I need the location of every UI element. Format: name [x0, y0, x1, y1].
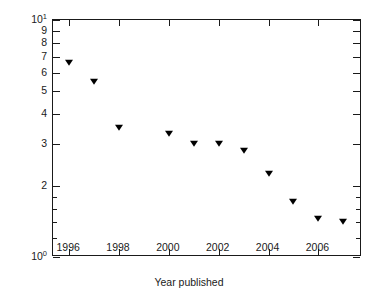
- data-point-marker: [165, 131, 173, 137]
- x-axis-tick-label: 2004: [243, 242, 293, 253]
- y-axis-minor-tick: [53, 238, 57, 239]
- y-axis-tick: [353, 186, 360, 187]
- data-point-marker: [65, 60, 73, 66]
- x-axis-tick: [119, 20, 120, 26]
- y-axis-tick-label: 4: [3, 108, 47, 119]
- data-point-marker: [190, 141, 198, 147]
- data-point-marker: [265, 170, 273, 176]
- y-axis-tick: [53, 114, 60, 115]
- y-axis-tick-label: 100: [3, 251, 47, 262]
- x-axis-tick-label: 2000: [143, 242, 193, 253]
- y-axis-tick-label: 5: [3, 85, 47, 96]
- data-point-marker: [289, 199, 297, 205]
- y-axis-tick: [353, 73, 360, 74]
- y-axis-tick: [353, 43, 360, 44]
- y-axis-tick: [53, 257, 60, 258]
- y-axis-tick: [53, 43, 60, 44]
- x-axis-title: Year published: [0, 276, 378, 288]
- chart-page: Pixel size (μm) Year published 101987654…: [0, 0, 378, 302]
- y-axis-tick-label: 2: [3, 180, 47, 191]
- x-axis-tick: [69, 20, 70, 26]
- y-axis-minor-tick: [53, 222, 57, 223]
- y-axis-minor-tick: [356, 197, 360, 198]
- y-axis-tick-label: 101: [3, 14, 47, 25]
- x-axis-tick-label: 2006: [292, 242, 342, 253]
- y-axis-tick: [53, 73, 60, 74]
- data-point-marker: [90, 78, 98, 84]
- y-axis-tick-label: 8: [3, 37, 47, 48]
- data-point-marker: [115, 125, 123, 131]
- y-axis-tick: [353, 257, 360, 258]
- y-axis-tick: [353, 20, 360, 21]
- y-axis-tick: [353, 91, 360, 92]
- y-axis-minor-tick: [53, 197, 57, 198]
- y-axis-tick: [53, 20, 60, 21]
- y-axis-tick: [353, 144, 360, 145]
- y-axis-minor-tick: [356, 238, 360, 239]
- y-axis-minor-tick: [356, 209, 360, 210]
- data-point-marker: [314, 216, 322, 222]
- x-axis-tick: [219, 20, 220, 26]
- y-axis-tick-label: 9: [3, 25, 47, 36]
- x-axis-tick-label: 2002: [193, 242, 243, 253]
- x-axis-tick-label: 1998: [93, 242, 143, 253]
- data-point-marker: [339, 219, 347, 225]
- y-axis-tick: [353, 114, 360, 115]
- x-axis-tick: [318, 20, 319, 26]
- plot-area: [52, 19, 361, 256]
- y-axis-minor-tick: [356, 222, 360, 223]
- data-point-marker: [215, 141, 223, 147]
- y-axis-tick-label: 6: [3, 67, 47, 78]
- x-axis-tick-label: 1996: [43, 242, 93, 253]
- y-axis-tick: [53, 144, 60, 145]
- data-point-marker: [240, 148, 248, 154]
- x-axis-tick: [169, 20, 170, 26]
- y-axis-tick: [53, 186, 60, 187]
- y-axis-tick: [353, 57, 360, 58]
- x-axis-tick: [269, 20, 270, 26]
- y-axis-tick-label: 3: [3, 138, 47, 149]
- y-axis-tick: [53, 91, 60, 92]
- y-axis-minor-tick: [53, 209, 57, 210]
- y-axis-tick-label: 7: [3, 51, 47, 62]
- y-axis-tick: [53, 57, 60, 58]
- y-axis-tick: [353, 31, 360, 32]
- y-axis-tick: [53, 31, 60, 32]
